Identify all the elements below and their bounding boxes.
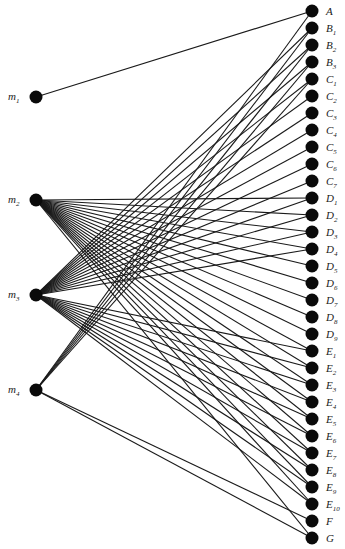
label-E6: E6: [325, 430, 337, 445]
node-m1: [30, 91, 43, 104]
node-A: [306, 5, 319, 18]
label-D6: D6: [325, 277, 338, 292]
node-C3: [306, 107, 319, 120]
label-E2: E2: [325, 362, 337, 377]
label-D5: D5: [325, 260, 338, 275]
edge-m1-A: [36, 11, 312, 97]
node-G: [306, 532, 319, 545]
node-C7: [306, 175, 319, 188]
label-C4: C4: [326, 124, 337, 139]
node-E10: [306, 498, 319, 511]
label-C7: C7: [326, 175, 337, 190]
edge-m3-C3: [36, 113, 312, 295]
node-E6: [306, 430, 319, 443]
label-D8: D8: [325, 311, 338, 326]
node-D2: [306, 209, 319, 222]
node-C5: [306, 141, 319, 154]
label-C3: C3: [326, 107, 337, 122]
label-E10: E10: [325, 498, 340, 513]
node-E8: [306, 464, 319, 477]
label-C6: C6: [326, 158, 337, 173]
node-E4: [306, 396, 319, 409]
label-E9: E9: [325, 481, 337, 496]
label-D3: D3: [325, 226, 338, 241]
node-m4: [30, 384, 43, 397]
node-B3: [306, 56, 319, 69]
edge-m3-E8: [36, 295, 312, 470]
label-C5: C5: [326, 141, 337, 156]
node-E7: [306, 447, 319, 460]
node-D6: [306, 277, 319, 290]
label-D7: D7: [325, 294, 338, 309]
node-E5: [306, 413, 319, 426]
label-C1: C1: [326, 73, 337, 88]
label-B2: B2: [326, 39, 337, 54]
label-E7: E7: [325, 447, 337, 462]
edge-m4-A: [36, 11, 312, 390]
label-E4: E4: [325, 396, 337, 411]
label-E1: E1: [325, 345, 336, 360]
label-A: A: [325, 5, 333, 17]
label-F: F: [325, 515, 333, 527]
node-m3: [30, 289, 43, 302]
edge-m3-E6: [36, 295, 312, 436]
label-D9: D9: [325, 328, 338, 343]
node-B1: [306, 22, 319, 35]
label-m2: m2: [8, 193, 20, 208]
label-E8: E8: [325, 464, 337, 479]
label-m4: m4: [8, 383, 20, 398]
node-B2: [306, 39, 319, 52]
node-E3: [306, 379, 319, 392]
node-D8: [306, 311, 319, 324]
node-E1: [306, 345, 319, 358]
node-D1: [306, 192, 319, 205]
edge-m4-F: [36, 390, 312, 521]
label-m3: m3: [8, 288, 20, 303]
node-E9: [306, 481, 319, 494]
edge-m3-E4: [36, 295, 312, 402]
node-m2: [30, 194, 43, 207]
edge-m2-G: [36, 200, 312, 538]
label-D4: D4: [325, 243, 338, 258]
label-G: G: [326, 532, 334, 544]
label-D1: D1: [325, 192, 337, 207]
node-D9: [306, 328, 319, 341]
label-B1: B1: [326, 22, 336, 37]
edge-m3-E9: [36, 295, 312, 487]
label-E3: E3: [325, 379, 337, 394]
node-D5: [306, 260, 319, 273]
node-E2: [306, 362, 319, 375]
label-D2: D2: [325, 209, 338, 224]
label-E5: E5: [325, 413, 337, 428]
label-C2: C2: [326, 90, 337, 105]
node-F: [306, 515, 319, 528]
node-D4: [306, 243, 319, 256]
node-C4: [306, 124, 319, 137]
node-C1: [306, 73, 319, 86]
node-C6: [306, 158, 319, 171]
edge-m3-C5: [36, 147, 312, 295]
edge-m4-B3: [36, 62, 312, 390]
label-B3: B3: [326, 56, 337, 71]
edge-m3-D4: [36, 249, 312, 295]
edge-layer: [36, 11, 312, 538]
label-m1: m1: [8, 90, 19, 105]
node-C2: [306, 90, 319, 103]
edge-m4-G: [36, 390, 312, 538]
bipartite-graph: m1m2m3m4AB1B2B3C1C2C3C4C5C6C7D1D2D3D4D5D…: [0, 0, 345, 549]
node-D3: [306, 226, 319, 239]
node-D7: [306, 294, 319, 307]
